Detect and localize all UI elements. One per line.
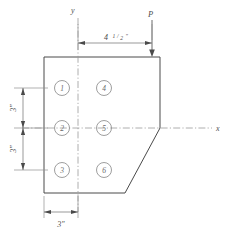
load-arrowhead-icon (149, 50, 155, 58)
load-label-p: P (147, 9, 153, 19)
dim-horizontal-numerator: 1 (113, 33, 116, 39)
bolt-label-4: 4 (102, 84, 106, 93)
dim-horizontal-whole: 4 (104, 33, 108, 42)
dim-horizontal-unit: " (125, 33, 128, 39)
bolt-label-5: 5 (102, 124, 106, 133)
dim-horizontal-text: 4 1 / 2 " (104, 31, 128, 42)
engineering-drawing: y x P 4 1 / 2 " 3" 3" (0, 0, 228, 233)
dim-vertical-lower-text: 3" (9, 145, 18, 154)
dim-arrow-bottom-left-icon (44, 210, 51, 214)
dim-arrow-bottom-right-icon (71, 210, 78, 214)
dim-arrow-lower-top-icon (21, 128, 25, 135)
bolt-label-2: 2 (60, 124, 64, 133)
dim-arrow-upper-top-icon (21, 88, 25, 95)
drawing-canvas: y x P 4 1 / 2 " 3" 3" (0, 0, 228, 233)
dim-horizontal-denominator: 2 (120, 35, 123, 41)
y-axis-label: y (70, 6, 75, 15)
dim-arrow-right-icon (145, 41, 152, 45)
dim-arrow-upper-bottom-icon (21, 121, 25, 128)
bolt-label-3: 3 (59, 166, 64, 175)
bolt-label-6: 6 (102, 166, 106, 175)
dim-vertical-upper-text: 3" (9, 104, 18, 113)
dim-fraction-slash: / (116, 33, 119, 39)
x-axis-label: x (215, 124, 220, 133)
dim-bottom-text: 3" (56, 220, 65, 229)
dim-arrow-left-icon (78, 41, 85, 45)
dim-arrow-lower-bottom-icon (21, 163, 25, 170)
bolt-label-1: 1 (60, 84, 64, 93)
